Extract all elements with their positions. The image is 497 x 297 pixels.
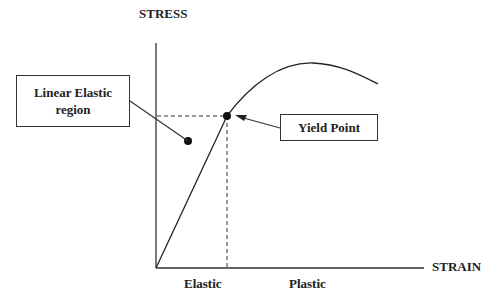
plastic-label: Plastic	[289, 276, 326, 292]
linear-elastic-line1: Linear Elastic	[34, 84, 112, 101]
linear-elastic-line2: region	[34, 101, 112, 118]
linear-elastic-callout: Linear Elastic region	[16, 75, 130, 127]
yield-arrow-head	[235, 115, 247, 121]
yield-arrow-line	[240, 117, 280, 128]
elastic-label: Elastic	[184, 276, 222, 292]
y-axis-label: STRESS	[139, 6, 187, 22]
yield-point-marker	[223, 112, 231, 120]
x-axis-label: STRAIN	[432, 259, 481, 275]
yield-point-callout: Yield Point	[280, 114, 378, 141]
stress-strain-curve	[156, 63, 378, 268]
stress-strain-diagram	[0, 0, 497, 297]
linear-elastic-leader	[130, 101, 188, 141]
